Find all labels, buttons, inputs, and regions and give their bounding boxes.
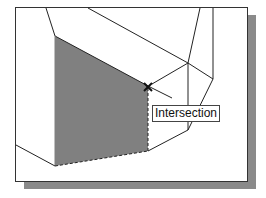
edge-bottom-left xyxy=(16,145,55,166)
shaded-face xyxy=(55,36,148,166)
drawing-canvas xyxy=(0,0,266,198)
snap-tooltip: Intersection xyxy=(152,105,220,122)
edge-right-a xyxy=(148,8,200,151)
cursor-line xyxy=(148,86,172,98)
edge-inner xyxy=(152,63,188,84)
